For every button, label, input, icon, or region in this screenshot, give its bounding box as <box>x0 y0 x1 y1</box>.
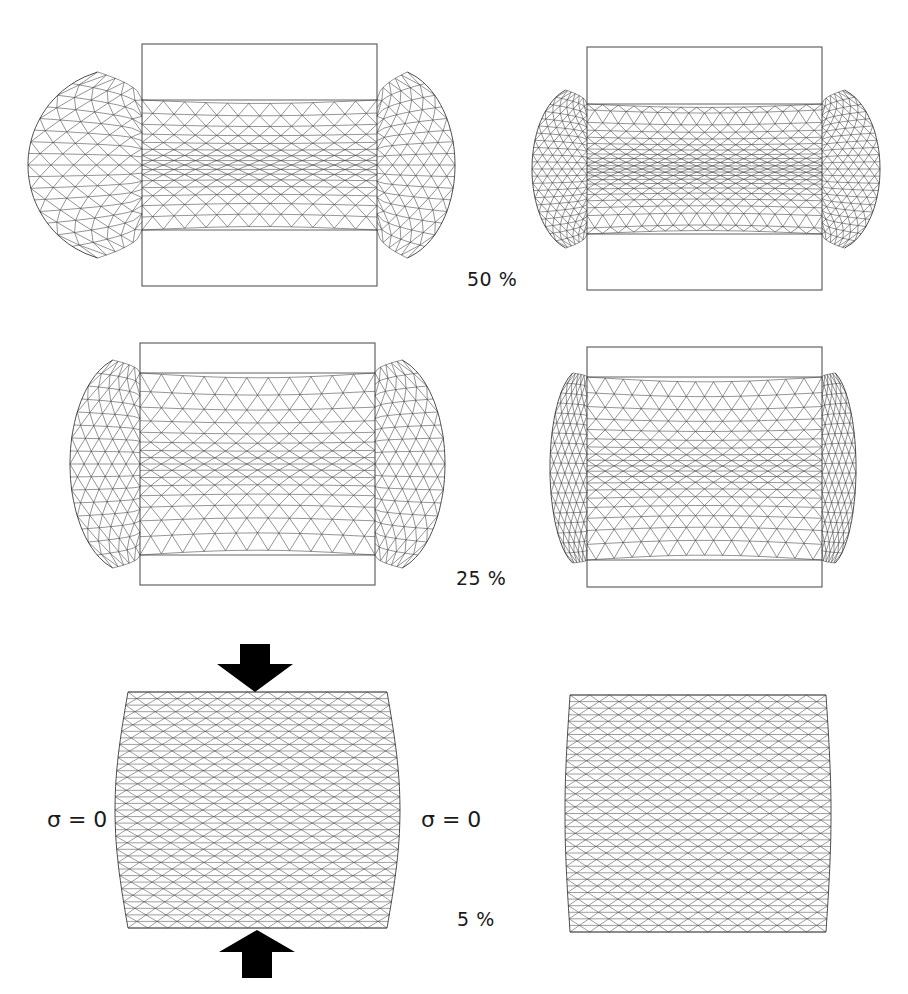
sigma-right-label: σ = 0 <box>421 807 481 832</box>
mesh-panel-5-percent-a <box>115 692 400 928</box>
mesh-panel-50-percent-b <box>532 47 880 290</box>
strain-label-5: 5 % <box>457 908 495 930</box>
mesh-panel-25-percent-a <box>70 343 445 585</box>
strain-label-50: 50 % <box>467 268 517 290</box>
figure-canvas <box>0 0 908 994</box>
compression-arrow-up-icon <box>219 930 295 978</box>
mesh-panel-25-percent-b <box>550 347 856 587</box>
mesh-panel-50-percent-a <box>28 44 455 286</box>
mesh-panel-5-percent-b <box>565 695 831 932</box>
compression-arrow-down-icon <box>217 644 293 692</box>
strain-label-25: 25 % <box>456 567 506 589</box>
sigma-left-label: σ = 0 <box>47 807 107 832</box>
